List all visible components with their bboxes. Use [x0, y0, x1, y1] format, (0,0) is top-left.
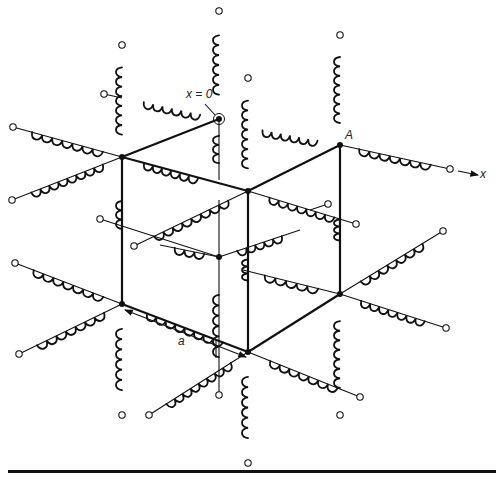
- wire: [243, 270, 340, 294]
- lattice-bond: [248, 294, 340, 352]
- lattice-bond: [122, 157, 248, 191]
- terminal-icon: [337, 32, 343, 38]
- terminal-icon: [12, 260, 18, 266]
- terminal-icon: [447, 166, 453, 172]
- terminal-icon: [353, 221, 359, 227]
- x-axis-label: x: [480, 167, 486, 181]
- inductor-coil: [242, 101, 248, 169]
- inductor-coil: [154, 201, 229, 240]
- wire: [13, 127, 122, 157]
- terminal-icon: [357, 394, 363, 400]
- inductor-coil: [213, 35, 219, 94]
- inductor-coil: [334, 321, 340, 388]
- x-axis-arrow-icon: [458, 171, 478, 175]
- terminal-icon: [146, 412, 152, 418]
- terminal-icon: [245, 460, 251, 466]
- terminal-icon: [119, 42, 125, 48]
- node-n7: [337, 291, 343, 297]
- inductor-coil: [359, 149, 431, 169]
- terminal-icon: [101, 91, 107, 97]
- lattice-bond: [122, 119, 219, 157]
- node-a: [337, 142, 343, 148]
- dimension-arrow-icon: [125, 310, 246, 357]
- terminal-icon: [245, 75, 251, 81]
- terminal-icon: [216, 8, 222, 14]
- terminal-icon: [440, 228, 446, 234]
- wire: [15, 263, 122, 304]
- inductor-coil: [270, 361, 338, 392]
- terminal-icon: [216, 392, 222, 398]
- inductor-coil: [33, 270, 103, 301]
- lattice-bond: [122, 304, 248, 352]
- inductor-coil: [265, 275, 318, 293]
- wire: [160, 245, 219, 257]
- node-n2: [245, 188, 251, 194]
- origin-label: x = 0: [186, 87, 212, 101]
- inductor-coil: [31, 165, 103, 197]
- inductor-coil: [242, 377, 248, 438]
- terminal-icon: [337, 412, 343, 418]
- wire: [340, 231, 443, 294]
- terminal-icon: [119, 412, 125, 418]
- lattice-circuit-diagram: [0, 0, 496, 483]
- node-a-label: A: [345, 128, 353, 142]
- terminal-icon: [16, 351, 22, 357]
- terminal-icon: [131, 243, 137, 249]
- inductor-coil: [144, 102, 200, 119]
- inductor-coil: [213, 136, 219, 163]
- terminal-icon: [325, 201, 331, 207]
- inductor-coil: [262, 130, 317, 146]
- inductor-coil: [237, 236, 282, 255]
- lattice-bond: [248, 145, 340, 191]
- figure-baseline-rule: [8, 470, 496, 473]
- node-n6: [245, 349, 251, 355]
- wire: [340, 294, 446, 328]
- spacing-label: a: [178, 334, 185, 348]
- node-n8: [216, 254, 222, 260]
- inductor-coil: [37, 313, 104, 349]
- inductor-coil: [116, 329, 122, 390]
- inductor-coil: [32, 132, 103, 156]
- terminal-icon: [10, 124, 16, 130]
- terminal-icon: [9, 197, 15, 203]
- inductor-coil: [269, 198, 334, 222]
- open-terminals: [9, 8, 453, 466]
- inductor-coil: [144, 163, 198, 183]
- terminal-icon: [97, 216, 103, 222]
- wire: [219, 230, 300, 257]
- terminal-icon: [443, 325, 449, 331]
- node-n5: [119, 301, 125, 307]
- inductor-coil: [166, 363, 231, 407]
- origin-leader-line: [205, 104, 215, 115]
- wire: [19, 304, 122, 354]
- inductor-coils: [31, 35, 431, 438]
- node-x0: [216, 116, 222, 122]
- inductor-coil: [334, 57, 340, 123]
- wire: [340, 145, 450, 169]
- node-n1: [119, 154, 125, 160]
- inductor-coil: [116, 67, 122, 134]
- inductor-coil: [361, 301, 425, 326]
- wire: [100, 219, 219, 257]
- wire: [248, 352, 360, 397]
- inductor-coil: [361, 244, 424, 285]
